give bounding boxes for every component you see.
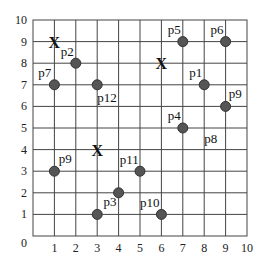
x-tick-label: 1 — [51, 241, 57, 255]
centroid-x-marker: X — [156, 55, 168, 72]
data-point — [135, 166, 145, 176]
point-label: p4 — [168, 108, 182, 123]
x-tick-label: 3 — [94, 241, 100, 255]
y-tick-label: 3 — [21, 164, 27, 178]
data-point — [178, 37, 188, 47]
point-label: p2 — [61, 44, 74, 59]
x-tick-label: 6 — [158, 241, 164, 255]
data-point — [178, 123, 188, 133]
y-tick-label: 8 — [21, 56, 27, 70]
x-tick-label: 0 — [21, 236, 27, 250]
y-tick-label: 7 — [21, 78, 27, 92]
x-axis-ticks: 012345678910 — [21, 236, 253, 255]
data-point — [71, 58, 81, 68]
x-tick-label: 2 — [73, 241, 79, 255]
x-tick-label: 5 — [137, 241, 143, 255]
data-point — [199, 80, 209, 90]
point-label: p10 — [140, 195, 160, 210]
x-tick-label: 4 — [116, 241, 122, 255]
y-tick-label: 4 — [21, 143, 27, 157]
data-point — [49, 80, 59, 90]
data-point — [49, 166, 59, 176]
point-label: p1 — [189, 65, 202, 80]
y-axis-ticks: 12345678910 — [15, 13, 27, 221]
y-tick-label: 10 — [15, 13, 27, 27]
y-tick-label: 1 — [21, 207, 27, 221]
centroid-x-marker: X — [49, 34, 61, 51]
data-point — [221, 101, 231, 111]
point-label: p3 — [104, 194, 117, 209]
point-label: p7 — [38, 65, 52, 80]
point-label: p12 — [97, 90, 117, 105]
point-label: p5 — [168, 22, 181, 37]
x-tick-label: 9 — [223, 241, 229, 255]
y-tick-label: 2 — [21, 186, 27, 200]
point-label: p11 — [120, 152, 139, 167]
data-point — [221, 37, 231, 47]
y-tick-label: 5 — [21, 121, 27, 135]
x-tick-label: 8 — [201, 241, 207, 255]
x-tick-label: 10 — [241, 241, 253, 255]
y-tick-label: 9 — [21, 35, 27, 49]
scatter-plot: 012345678910 12345678910 XXX p1p2p3p4p5p… — [0, 0, 268, 269]
point-label: p6 — [211, 22, 225, 37]
point-label: p9 — [59, 151, 72, 166]
y-tick-label: 6 — [21, 99, 27, 113]
data-point — [92, 209, 102, 219]
x-tick-label: 7 — [180, 241, 186, 255]
point-label: p9 — [229, 86, 242, 101]
data-point — [92, 80, 102, 90]
centroid-x-marker: X — [91, 142, 103, 159]
point-label: p8 — [204, 131, 217, 146]
data-point — [156, 209, 166, 219]
